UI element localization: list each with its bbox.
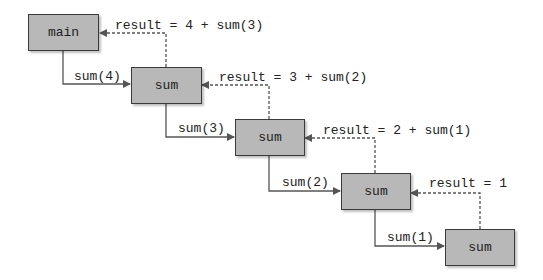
return-label-2: result = 3 + sum(2) [219,71,367,85]
return-label-3: result = 2 + sum(1) [323,124,471,138]
return-label-1: result = 4 + sum(3) [115,19,263,33]
node-sum-4: sum [131,67,202,104]
node-sum-2: sum [341,173,411,210]
call-label-sum3: sum(3) [178,122,225,136]
node-sum-1: sum [445,229,515,266]
return-label-4: result = 1 [429,177,507,191]
node-sum-3: sum [235,119,305,156]
call-label-sum4: sum(4) [74,70,121,84]
call-label-sum2: sum(2) [282,176,329,190]
call-label-sum1: sum(1) [387,231,434,245]
node-main: main [28,14,99,51]
